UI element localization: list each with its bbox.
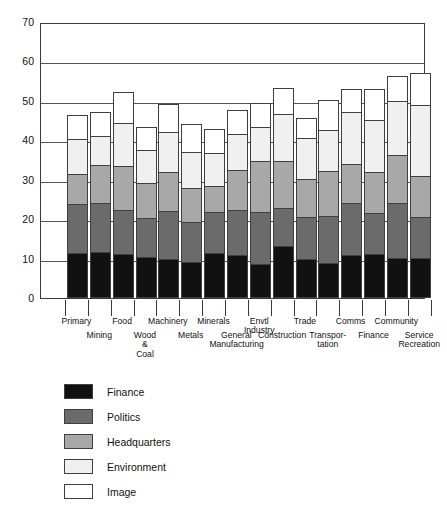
y-axis-tick-label: 40 — [2, 135, 34, 145]
bar-segment-environment — [250, 127, 271, 161]
bar-segment-finance — [273, 246, 294, 298]
bar-segment-politics — [296, 217, 317, 259]
bar-comms[interactable] — [341, 89, 362, 298]
bar-segment-image — [318, 100, 339, 131]
category-label-community: Community — [369, 317, 423, 326]
legend-label: Image — [107, 486, 136, 498]
bar-segment-politics — [181, 222, 202, 261]
legend-swatch-headquarters — [64, 434, 93, 449]
bar-segment-finance — [410, 258, 431, 298]
bar-segment-headquarters — [67, 174, 88, 204]
bar-transpor-tation[interactable] — [318, 100, 339, 298]
x-axis-tick — [88, 300, 89, 316]
bar-segment-image — [364, 89, 385, 120]
bar-segment-headquarters — [364, 172, 385, 213]
bar-segment-headquarters — [250, 161, 271, 212]
bar-segment-headquarters — [318, 171, 339, 215]
bar-segment-image — [410, 73, 431, 105]
bar-minerals[interactable] — [204, 129, 225, 299]
bar-primary[interactable] — [67, 115, 88, 298]
legend-item-environment[interactable]: Environment — [64, 454, 324, 479]
x-axis-tick — [294, 300, 295, 316]
bar-envtl-industry[interactable] — [250, 103, 271, 298]
bar-segment-finance — [296, 259, 317, 298]
bar-segment-politics — [113, 210, 134, 254]
bar-metals[interactable] — [181, 124, 202, 298]
bar-segment-headquarters — [90, 165, 111, 202]
bar-segment-image — [158, 104, 179, 132]
chart-legend: FinancePoliticsHeadquartersEnvironmentIm… — [64, 379, 324, 504]
bar-segment-image — [136, 127, 157, 151]
x-axis-tick — [134, 300, 135, 316]
bar-segment-environment — [158, 132, 179, 171]
bar-service-recreation[interactable] — [410, 73, 431, 298]
bar-segment-environment — [113, 123, 134, 167]
bar-segment-politics — [410, 217, 431, 258]
bar-segment-environment — [318, 130, 339, 171]
bar-segment-politics — [90, 203, 111, 253]
bar-segment-politics — [341, 203, 362, 255]
bar-segment-environment — [136, 150, 157, 183]
bar-segment-finance — [364, 254, 385, 298]
x-axis-tick — [111, 300, 112, 316]
bar-segment-politics — [67, 204, 88, 253]
bar-segment-image — [113, 92, 134, 123]
legend-item-image[interactable]: Image — [64, 479, 324, 504]
bar-segment-environment — [341, 112, 362, 163]
x-axis-tick — [385, 300, 386, 316]
y-axis-tick-label: 10 — [2, 254, 34, 264]
bar-segment-politics — [250, 212, 271, 264]
y-axis-tick-label: 70 — [2, 17, 34, 27]
legend-item-finance[interactable]: Finance — [64, 379, 324, 404]
x-axis-tick — [65, 300, 66, 316]
bar-segment-environment — [364, 120, 385, 172]
bar-segment-image — [250, 103, 271, 127]
bar-segment-finance — [227, 255, 248, 298]
bar-general-manufacturing[interactable] — [227, 110, 248, 298]
legend-swatch-image — [64, 484, 93, 499]
y-axis-tick-label: 60 — [2, 56, 34, 66]
bar-mining[interactable] — [90, 112, 111, 298]
legend-item-politics[interactable]: Politics — [64, 404, 324, 429]
bar-segment-headquarters — [181, 188, 202, 222]
bar-segment-politics — [158, 211, 179, 259]
bar-segment-politics — [273, 208, 294, 246]
bar-segment-politics — [364, 213, 385, 254]
bar-segment-environment — [273, 114, 294, 161]
x-axis-tick — [408, 300, 409, 316]
category-label-service-recreation: ServiceRecreation — [392, 331, 446, 350]
bar-segment-headquarters — [136, 183, 157, 218]
bar-trade[interactable] — [296, 118, 317, 298]
legend-item-headquarters[interactable]: Headquarters — [64, 429, 324, 454]
bar-segment-environment — [227, 134, 248, 170]
bar-segment-image — [204, 129, 225, 153]
legend-swatch-finance — [64, 384, 93, 399]
bar-wood-coal[interactable] — [136, 127, 157, 298]
bar-segment-finance — [341, 255, 362, 298]
x-axis-tick — [179, 300, 180, 316]
bar-series-group — [41, 24, 424, 298]
bar-segment-headquarters — [341, 164, 362, 204]
x-axis-tick — [431, 300, 432, 316]
bar-segment-environment — [204, 153, 225, 186]
bar-segment-environment — [90, 136, 111, 165]
legend-swatch-politics — [64, 409, 93, 424]
bar-segment-finance — [136, 257, 157, 298]
bar-segment-finance — [204, 253, 225, 298]
bar-food[interactable] — [113, 92, 134, 298]
bar-segment-headquarters — [158, 172, 179, 211]
bar-segment-politics — [227, 210, 248, 255]
bar-segment-headquarters — [227, 170, 248, 210]
bar-segment-headquarters — [296, 179, 317, 217]
chart-figure: 706050403020100 PrimaryMiningFoodWood&Co… — [0, 0, 447, 515]
bar-community[interactable] — [387, 76, 408, 298]
bar-construction[interactable] — [273, 88, 294, 298]
bar-machinery[interactable] — [158, 104, 179, 298]
x-axis-tick — [156, 300, 157, 316]
bar-segment-finance — [158, 259, 179, 298]
legend-swatch-environment — [64, 459, 93, 474]
bar-finance[interactable] — [364, 89, 385, 298]
bar-segment-politics — [387, 203, 408, 258]
bar-segment-politics — [136, 218, 157, 257]
x-axis-tick — [271, 300, 272, 316]
